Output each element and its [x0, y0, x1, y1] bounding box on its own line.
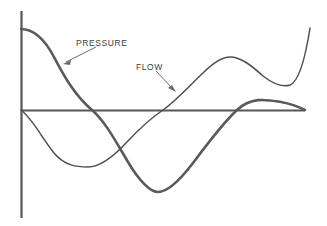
- pressure-leader-arrow-icon: [63, 60, 71, 65]
- flow-leader-arrow-icon: [168, 85, 176, 92]
- waveform-plot: [0, 0, 327, 226]
- flow-curve: [21, 28, 310, 167]
- flow-label: FLOW: [136, 63, 163, 72]
- waveform-diagram: PRESSURE FLOW: [0, 0, 327, 226]
- pressure-leader: [63, 47, 96, 65]
- pressure-label: PRESSURE: [76, 39, 128, 48]
- flow-leader: [156, 71, 176, 92]
